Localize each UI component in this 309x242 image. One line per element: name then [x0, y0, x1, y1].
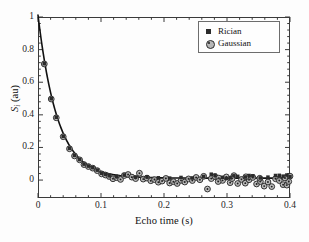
x-tick-label: 0.2 — [147, 201, 181, 211]
x-tick-label: 0.1 — [84, 201, 118, 211]
y-axis-title-unit: (au) — [9, 85, 20, 105]
x-axis-title: Echo time (s) — [38, 215, 290, 226]
legend-item-gaussian[interactable]: Gaussian — [203, 37, 274, 49]
dotted-circle-icon — [203, 38, 216, 49]
chart-figure: 00.20.40.60.81 Rician Gaussian Echo time… — [0, 0, 309, 242]
y-axis-title-main: S — [9, 107, 20, 112]
series-gaussian-points — [41, 61, 293, 192]
x-tick-label: 0.4 — [273, 201, 307, 211]
legend-label-rician: Rician — [216, 26, 242, 37]
y-axis-title-sub: i — [13, 105, 22, 107]
legend-label-gaussian: Gaussian — [216, 38, 251, 49]
legend-item-rician[interactable]: Rician — [203, 25, 274, 37]
x-tick-label: 0 — [21, 201, 55, 211]
x-tick-label: 0.3 — [210, 201, 244, 211]
legend[interactable]: Rician Gaussian — [198, 21, 280, 53]
filled-square-icon — [203, 26, 216, 37]
y-axis-title: Si (au) — [9, 54, 22, 144]
